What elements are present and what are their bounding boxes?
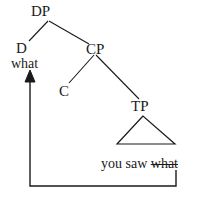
tp-triangle bbox=[117, 116, 175, 144]
node-label-tp: TP bbox=[131, 99, 149, 114]
node-label-cp: CP bbox=[86, 42, 104, 57]
sentence-line: you saw what bbox=[101, 156, 178, 171]
node-label-c: C bbox=[59, 84, 69, 99]
movement-arrowhead bbox=[25, 70, 35, 82]
sentence-trace-what: what bbox=[151, 156, 178, 171]
node-label-dp: DP bbox=[31, 4, 50, 19]
terminal-what-fronted: what bbox=[11, 57, 38, 71]
sentence-words: you saw bbox=[101, 156, 151, 171]
branch-dp-to-d bbox=[29, 21, 48, 41]
syntax-tree-figure: DP D CP C TP what you saw what bbox=[0, 0, 206, 198]
node-label-d: D bbox=[16, 41, 27, 56]
branch-cp-to-c bbox=[69, 55, 94, 83]
branch-cp-to-tp bbox=[96, 55, 139, 99]
branch-dp-to-cp bbox=[49, 21, 89, 44]
